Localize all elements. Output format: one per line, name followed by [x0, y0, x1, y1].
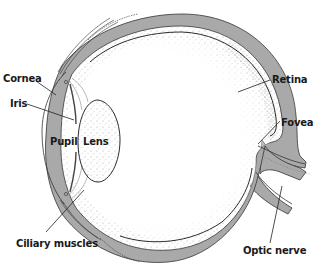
label-pupil: Pupil — [50, 136, 77, 147]
label-retina: Retina — [272, 74, 307, 85]
label-ciliary-muscles: Ciliary muscles — [16, 238, 98, 249]
label-cornea: Cornea — [3, 73, 42, 84]
label-iris: Iris — [10, 98, 27, 109]
label-lens: Lens — [83, 136, 108, 147]
eye-diagram: Cornea Iris Pupil Lens Retina Fovea Cili… — [0, 0, 319, 279]
label-fovea: Fovea — [281, 117, 313, 128]
label-optic-nerve: Optic nerve — [243, 245, 306, 256]
